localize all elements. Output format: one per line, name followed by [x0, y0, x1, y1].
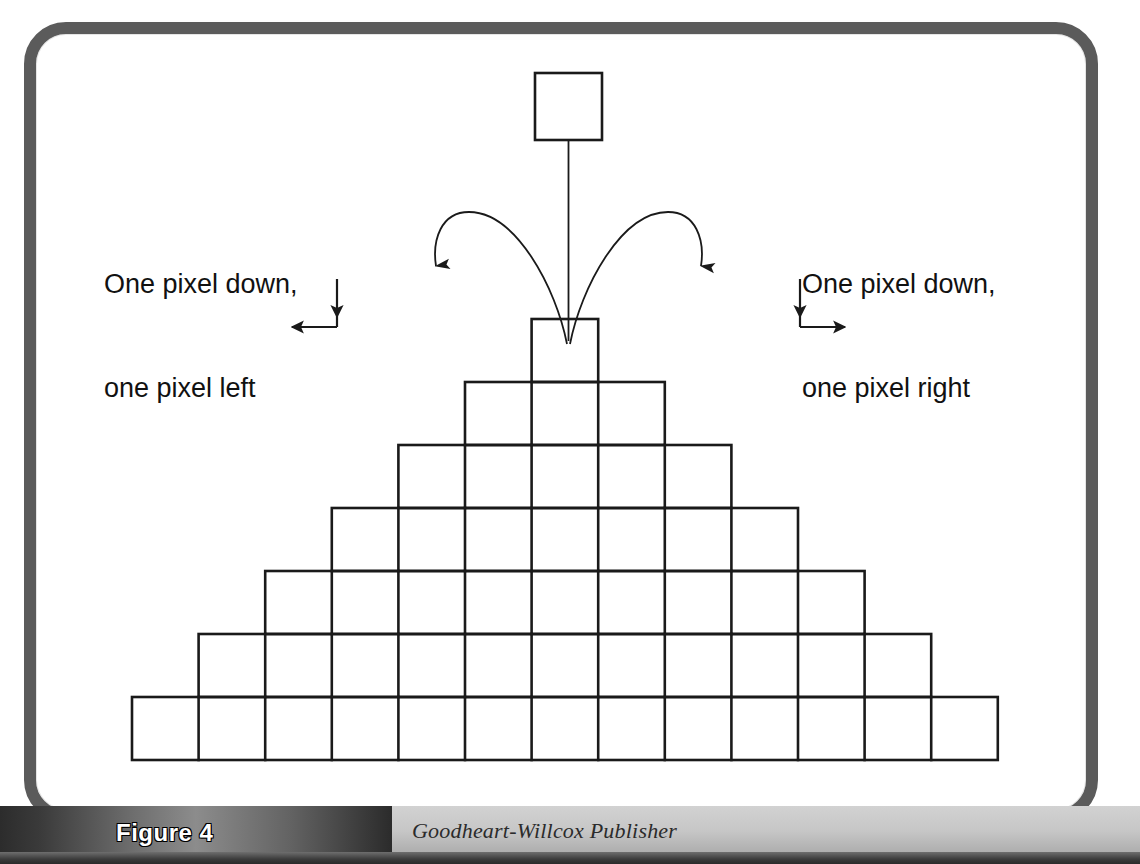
callout-right: One pixel down, one pixel right [802, 198, 996, 474]
figure-footer: Figure 4 Goodheart-Willcox Publisher [0, 806, 1140, 864]
publisher-credit: Goodheart-Willcox Publisher [412, 818, 677, 844]
callout-left-line1: One pixel down, [104, 267, 298, 302]
figure-root: One pixel down, one pixel left One pixel… [0, 0, 1140, 864]
callout-right-line2: one pixel right [802, 371, 996, 406]
figure-number-label: Figure 4 [116, 819, 213, 847]
callout-right-line1: One pixel down, [802, 267, 996, 302]
callout-left-line2: one pixel left [104, 371, 298, 406]
callout-left: One pixel down, one pixel left [104, 198, 298, 474]
footer-bottom-strip [0, 852, 1140, 864]
